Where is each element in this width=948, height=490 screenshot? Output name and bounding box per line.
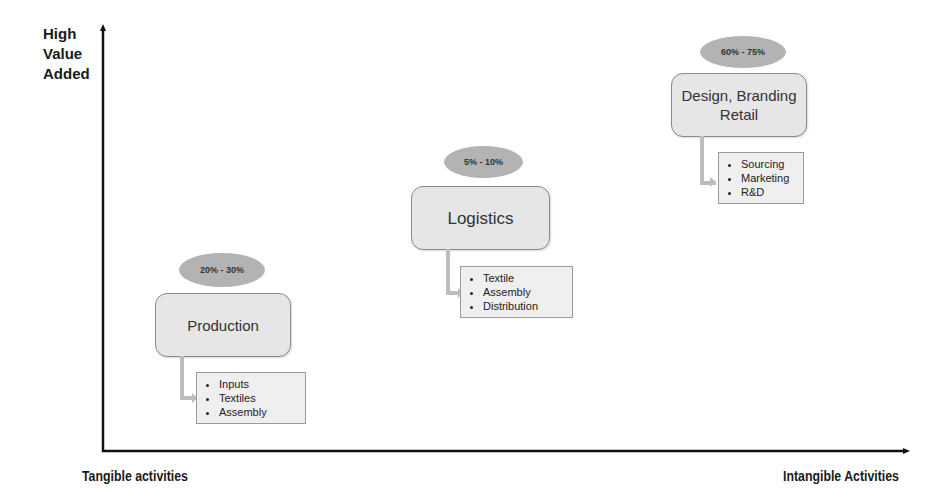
x-axis-right-label: Intangible Activities [783,468,899,484]
y-label-line: High [43,24,90,44]
design-box-line: Design, Branding [681,86,796,105]
production-box: Production [155,293,291,357]
list-item: Textiles [219,391,299,405]
list-item: Assembly [219,405,299,419]
logistics-box: Logistics [411,186,550,250]
logistics-range-badge: 5% - 10% [444,146,523,178]
y-label-line: Added [43,64,90,84]
list-item: R&D [741,185,797,199]
design-list: Sourcing Marketing R&D [718,152,804,204]
list-item: Inputs [219,377,299,391]
list-item: Textile [483,271,566,285]
design-box: Design, Branding Retail [671,73,807,137]
design-range-badge: 60% - 75% [700,36,786,68]
list-item: Distribution [483,299,566,313]
y-axis-label: High Value Added [43,24,90,84]
production-range-badge: 20% - 30% [179,253,265,287]
list-item: Marketing [741,171,797,185]
list-item: Sourcing [741,157,797,171]
design-box-line: Retail [720,105,758,124]
logistics-list: Textile Assembly Distribution [460,266,573,318]
y-label-line: Value [43,44,90,64]
arrow-icon [710,177,716,187]
x-axis-left-label: Tangible activities [82,468,188,484]
production-list: Inputs Textiles Assembly [196,372,306,424]
list-item: Assembly [483,285,566,299]
